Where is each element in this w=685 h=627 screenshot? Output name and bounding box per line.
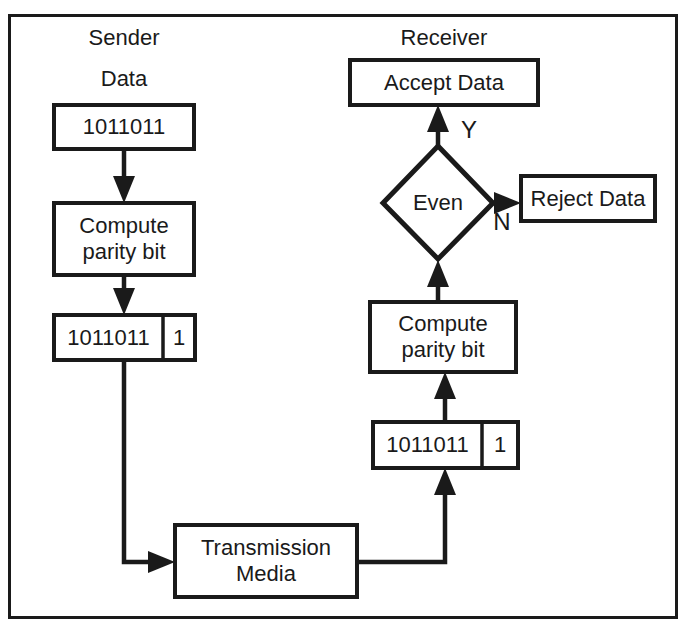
receiver-compute-parity-label: Compute parity bit xyxy=(370,302,516,372)
sender-data-heading: Data xyxy=(54,67,194,91)
receiver-frame-data-label: 1011011 xyxy=(373,422,482,468)
sender-data-box-label: 1011011 xyxy=(54,105,194,149)
arrowhead-media-to-receiver-frame xyxy=(434,468,456,495)
arrowhead-sender-frame-to-media xyxy=(148,551,175,573)
diagram-canvas: Sender Data Receiver 1011011 Compute par… xyxy=(0,0,685,627)
sender-frame-data-label: 1011011 xyxy=(54,315,163,360)
edge-label-no: N xyxy=(487,210,517,234)
transmission-media-label: Transmission Media xyxy=(175,525,357,597)
sender-compute-parity-label: Compute parity bit xyxy=(54,203,194,275)
arrowhead-decision-yes-to-accept xyxy=(427,105,449,132)
even-decision-label: Even xyxy=(388,181,488,225)
reject-data-label: Reject Data xyxy=(521,176,655,221)
sender-heading: Sender xyxy=(54,26,194,50)
edge-sender-frame-to-media xyxy=(124,360,160,562)
arrowhead-sender-compute-to-frame xyxy=(113,288,135,315)
arrowhead-receiver-frame-to-compute xyxy=(434,372,456,399)
arrowhead-receiver-compute-to-decision xyxy=(427,260,449,287)
edge-media-to-receiver-frame xyxy=(357,485,445,562)
arrowhead-sender-data-to-compute xyxy=(113,176,135,203)
accept-data-label: Accept Data xyxy=(350,60,538,105)
receiver-heading: Receiver xyxy=(350,26,538,50)
edge-label-yes: Y xyxy=(452,118,486,142)
sender-frame-parity-label: 1 xyxy=(163,315,195,360)
receiver-frame-parity-label: 1 xyxy=(482,422,518,468)
